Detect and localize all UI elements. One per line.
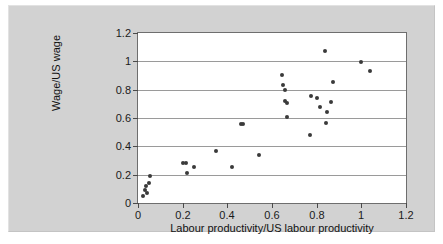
scatter-point <box>323 49 327 53</box>
plot-area: 00.20.40.60.811.2 00.20.40.60.811.2 <box>137 32 407 204</box>
gridline <box>138 90 406 91</box>
y-axis-title: Wage/US wage <box>50 22 62 124</box>
scatter-point <box>324 121 328 125</box>
gridline <box>138 175 406 176</box>
x-tick-label: 0.8 <box>309 210 324 221</box>
chart-card: Wage/US wage 00.20.40.60.811.2 00.20.40.… <box>8 5 435 232</box>
scatter-point <box>184 161 188 165</box>
scatter-point <box>230 165 234 169</box>
scatter-point <box>285 101 289 105</box>
x-tick-mark <box>272 203 273 208</box>
x-tick-mark <box>183 203 184 208</box>
scatter-point <box>368 69 372 73</box>
scatter-point <box>318 105 322 109</box>
scatter-point <box>141 194 145 198</box>
y-tick-mark <box>133 175 138 176</box>
scatter-point <box>309 94 313 98</box>
scatter-point <box>315 96 319 100</box>
scatter-point <box>283 88 287 92</box>
x-tick-label: 0 <box>135 210 141 221</box>
scatter-point <box>329 100 333 104</box>
x-tick-mark <box>227 203 228 208</box>
y-tick-label: 1 <box>125 56 131 67</box>
x-tick-mark <box>317 203 318 208</box>
scatter-point <box>308 133 312 137</box>
x-tick-label: 1 <box>358 210 364 221</box>
y-tick-label: 0.2 <box>116 170 131 181</box>
scatter-point <box>145 191 149 195</box>
x-tick-label: 1.2 <box>398 210 413 221</box>
y-tick-label: 0.8 <box>116 85 131 96</box>
scatter-point <box>148 174 152 178</box>
x-axis-title: Labour productivity/US labour productivi… <box>137 222 407 234</box>
y-tick-label: 0.6 <box>116 113 131 124</box>
scatter-point <box>280 73 284 77</box>
x-tick-label: 0.2 <box>175 210 190 221</box>
x-tick-label: 0.6 <box>264 210 279 221</box>
scatter-point <box>185 171 189 175</box>
y-tick-label: 1.2 <box>116 28 131 39</box>
figure-container: Wage/US wage 00.20.40.60.811.2 00.20.40.… <box>0 0 443 244</box>
scatter-point <box>331 80 335 84</box>
y-tick-label: 0 <box>125 198 131 209</box>
scatter-point <box>214 149 218 153</box>
x-tick-mark <box>138 203 139 208</box>
scatter-point <box>281 83 285 87</box>
x-tick-label: 0.4 <box>219 210 234 221</box>
gridline <box>138 61 406 62</box>
x-tick-mark <box>361 203 362 208</box>
scatter-point <box>325 110 329 114</box>
scatter-point <box>192 165 196 169</box>
gridline <box>138 146 406 147</box>
y-tick-mark <box>133 90 138 91</box>
y-tick-mark <box>133 118 138 119</box>
gridline <box>138 118 406 119</box>
scatter-point <box>359 60 363 64</box>
scatter-point <box>241 122 245 126</box>
scatter-point <box>257 153 261 157</box>
y-tick-mark <box>133 146 138 147</box>
scatter-point <box>147 181 151 185</box>
scatter-point <box>285 115 289 119</box>
x-tick-mark <box>406 203 407 208</box>
y-tick-mark <box>133 33 138 34</box>
y-tick-mark <box>133 61 138 62</box>
y-tick-label: 0.4 <box>116 141 131 152</box>
scatter-point <box>144 184 148 188</box>
